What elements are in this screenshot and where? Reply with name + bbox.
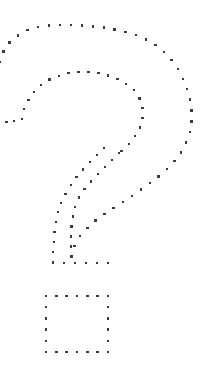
stem-right-diagonal [72,215,74,217]
inner-arc-terminal [21,118,23,120]
inner-arc [139,126,141,128]
stem-left-diagonal [64,193,66,195]
outer-arc [185,141,187,143]
stem-left-diagonal [53,231,55,233]
dot-square [65,295,67,297]
dot-square [45,317,47,319]
stem-right-diagonal [70,235,72,237]
inner-arc [58,75,60,77]
dot-square [107,317,109,319]
stem-right-diagonal [118,152,120,154]
dot-square [45,328,47,330]
inner-arc [27,99,29,101]
outer-arc [59,24,61,26]
outer-arc [92,25,94,27]
dot-square [86,295,88,297]
stem-right-diagonal [70,245,72,247]
inner-arc [33,91,35,93]
inner-arc [77,71,79,73]
dot-square [107,328,109,330]
outer-arc [48,24,50,26]
outer-arc [8,41,10,43]
outer-arc [124,31,126,33]
outer-arc [103,213,105,215]
stem-left-diagonal [75,176,77,178]
outer-arc [163,51,165,53]
stem-right-diagonal [90,180,92,182]
stem-bottom [63,262,65,264]
dot-square [55,351,57,353]
inner-arc [133,89,135,91]
outer-arc [79,235,81,237]
artwork-canvas: ? [0,0,219,379]
stem-right-diagonal [70,225,72,227]
outer-arc [2,50,4,52]
outer-arc [182,78,184,80]
inner-arc [120,150,122,152]
outer-arc [94,219,96,221]
dot-square [45,351,47,353]
inner-arc [141,117,143,119]
stem-bottom [107,262,109,264]
inner-arc [125,83,127,85]
stem-bottom [85,262,87,264]
stem-bottom [96,262,98,264]
stem-right-diagonal [78,196,80,198]
stem-right-diagonal [104,166,106,168]
outer-arc [112,207,114,209]
dot-square [55,295,57,297]
dot-square [107,340,109,342]
dot-square [107,306,109,308]
inner-arc [40,84,42,86]
outer-arc [166,168,168,170]
outer-arc [157,175,159,177]
outer-arc [131,195,133,197]
outer-arc [189,98,191,100]
dot-square [86,351,88,353]
dot-square [96,295,98,297]
outer-arc [170,59,172,61]
outer-arc [177,68,179,70]
outer-arc [86,227,88,229]
inner-arc [128,143,130,145]
outer-arc [135,34,137,36]
outer-arc [186,88,188,90]
dot-group [0,24,193,353]
stem-left-diagonal [96,154,98,156]
inner-arc [107,74,109,76]
outer-arc [122,201,124,203]
dot-square [107,295,109,297]
inner-arc [141,107,143,109]
stem-right-diagonal [111,159,113,161]
stem-bottom [52,262,54,264]
inner-arc [23,108,25,110]
stem-right-diagonal [83,188,85,190]
outer-arc [26,29,28,31]
stem-left-diagonal [60,202,62,204]
stem-left-diagonal [103,147,105,149]
inner-arc [116,78,118,80]
dotted-question-mark-glyph [0,0,219,379]
outer-arc [70,24,72,26]
dot-square [107,351,109,353]
stem-left-diagonal [82,168,84,170]
stem-left-diagonal [53,241,55,243]
dot-square [45,295,47,297]
stem-left-diagonal [89,161,91,163]
outer-arc [190,109,192,111]
inner-arc [87,71,89,73]
inner-arc [138,97,140,99]
outer-arc [140,188,142,190]
inner-arc [134,135,136,137]
dot-square [76,351,78,353]
outer-arc [154,44,156,46]
stem-left-diagonal [57,211,59,213]
outer-arc [180,151,182,153]
stem-left-diagonal [52,251,54,253]
outer-arc [190,120,192,122]
stem-bottom [74,262,76,264]
stem-right-diagonal [97,173,99,175]
outer-arc [0,61,1,63]
outer-arc [189,131,191,133]
stem-right-diagonal [74,206,76,208]
